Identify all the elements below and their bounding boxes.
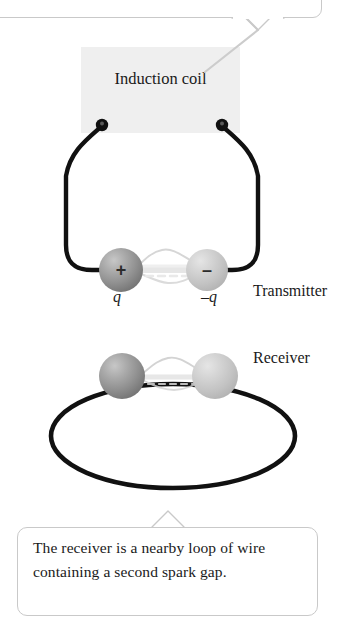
receiver-label: Receiver [253,348,310,367]
receiver-left-sphere [99,353,145,399]
negative-charge-label: –q [192,288,226,306]
positive-sign: + [99,261,143,279]
transmitter-wire-left [66,126,116,270]
bottom-callout-text: The receiver is a nearby loop of wire co… [33,536,305,584]
transmitter-label: Transmitter [253,281,327,300]
transmitter-wire-right [210,126,258,270]
transmitter-negative-sphere: – [186,249,228,291]
top-callout-leader-line [205,18,258,72]
negative-sign: – [186,261,228,279]
top-callout-notch-mask [233,12,283,19]
receiver-loop-wire [51,384,295,488]
coil-terminal-right-highlight [220,121,224,125]
coil-terminal-left-highlight [100,121,104,125]
receiver-right-sphere [192,353,238,399]
top-callout-notch [232,18,284,30]
figure-canvas: spark gap. Induction coil [0,0,362,634]
transmitter-positive-sphere: + [99,248,143,292]
positive-charge-label: q [105,288,129,306]
